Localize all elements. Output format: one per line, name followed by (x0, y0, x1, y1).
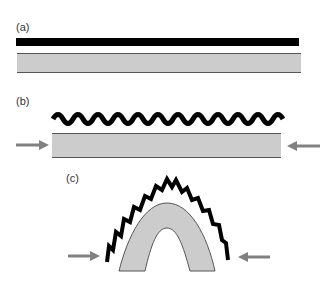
diagram-canvas (0, 0, 336, 282)
gray-layer (52, 133, 281, 158)
panel-c (68, 179, 270, 271)
wavy-black-layer (53, 115, 283, 124)
panel-b (16, 115, 320, 159)
panel-a (16, 38, 301, 73)
gray-layer (17, 53, 301, 73)
black-layer (16, 38, 299, 46)
